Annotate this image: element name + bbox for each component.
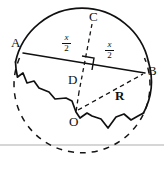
fraction-numerator: x (64, 33, 70, 43)
point-label-O: O (69, 115, 78, 128)
geometry-figure: A B C D O R x 2 x 2 (0, 0, 164, 184)
point-label-B: B (148, 64, 157, 77)
circle-dashed-arc (14, 58, 150, 153)
circle-solid-arc (16, 8, 149, 62)
fraction-numerator: x (107, 40, 113, 50)
point-label-D: D (68, 73, 77, 86)
fraction-denominator: 2 (106, 51, 113, 61)
half-chord-label-left: x 2 (62, 33, 71, 53)
fraction-denominator: 2 (63, 44, 70, 54)
point-label-A: A (11, 36, 20, 49)
label-radius-R: R (115, 89, 124, 102)
geometry-canvas (0, 0, 164, 184)
torn-edge-path (18, 73, 144, 128)
half-chord-label-right: x 2 (105, 40, 114, 60)
segment-OB-radius-dashed (78, 74, 143, 110)
point-label-C: C (89, 10, 98, 23)
circle-arc-left-lower (16, 62, 18, 77)
